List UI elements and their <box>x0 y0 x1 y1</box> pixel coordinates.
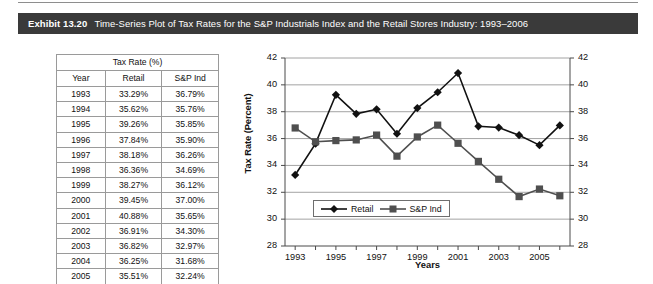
cell-sp-ind: 32.24% <box>162 269 219 284</box>
cell-year: 2005 <box>57 269 106 284</box>
table-super-header-row: Tax Rate (%) <box>57 55 219 71</box>
tax-rate-table: Tax Rate (%) Year Retail S&P Ind 199333.… <box>56 54 219 284</box>
series-line <box>295 73 560 175</box>
cell-sp-ind: 32.97% <box>162 239 219 254</box>
cell-retail: 36.82% <box>105 239 162 254</box>
table-body: 199333.29%36.79%199435.62%35.76%199539.2… <box>57 87 219 284</box>
data-point-diamond <box>474 122 482 130</box>
y-axis-tick-label-right: 36 <box>578 133 594 143</box>
y-axis-tick-label-left: 38 <box>261 106 277 116</box>
y-axis-tick-label-right: 40 <box>578 79 594 89</box>
table-header-row: Year Retail S&P Ind <box>57 71 219 87</box>
table-row: 200336.82%32.97% <box>57 239 219 254</box>
y-axis-tick-label-left: 34 <box>261 159 277 169</box>
table-row: 200436.25%31.68% <box>57 254 219 269</box>
cell-sp-ind: 36.79% <box>162 87 219 102</box>
cell-year: 1998 <box>57 163 106 178</box>
table-row: 200236.91%34.30% <box>57 223 219 238</box>
column-header-year: Year <box>57 71 106 87</box>
x-axis-tick-label: 2005 <box>522 252 556 262</box>
column-header-retail: Retail <box>105 71 162 87</box>
table-row: 200039.45%37.00% <box>57 193 219 208</box>
cell-year: 1996 <box>57 132 106 147</box>
cell-retail: 36.36% <box>105 163 162 178</box>
legend-label: Retail <box>351 204 374 214</box>
data-point-square <box>556 192 563 199</box>
table-row: 199539.26%35.85% <box>57 117 219 132</box>
table-row: 199938.27%36.12% <box>57 178 219 193</box>
legend-diamond-icon <box>321 203 347 215</box>
legend-item-retail: Retail <box>321 203 374 215</box>
y-axis-tick-label-right: 34 <box>578 159 594 169</box>
cell-sp-ind: 35.85% <box>162 117 219 132</box>
x-axis-tick-label: 1999 <box>400 252 434 262</box>
chart-legend: RetailS&P Ind <box>313 200 450 217</box>
y-axis-tick-label-left: 36 <box>261 133 277 143</box>
exhibit-number: Exhibit 13.20 <box>28 18 87 29</box>
x-axis-tick-label: 2001 <box>441 252 475 262</box>
cell-retail: 39.26% <box>105 117 162 132</box>
table-row: 199738.18%36.26% <box>57 147 219 162</box>
table-row: 200535.51%32.24% <box>57 269 219 284</box>
series-retail <box>291 69 564 179</box>
data-point-diamond <box>495 123 503 131</box>
exhibit-title: Time-Series Plot of Tax Rates for the S&… <box>94 18 528 29</box>
data-point-square <box>536 185 543 192</box>
y-axis-tick-label-left: 28 <box>261 240 277 250</box>
cell-year: 1999 <box>57 178 106 193</box>
column-header-sp-ind: S&P Ind <box>162 71 219 87</box>
cell-year: 1994 <box>57 102 106 117</box>
x-axis-tick-label: 1995 <box>319 252 353 262</box>
top-divider <box>18 2 638 3</box>
cell-sp-ind: 36.26% <box>162 147 219 162</box>
y-axis-tick-label-left: 40 <box>261 79 277 89</box>
time-series-chart: Tax Rate (Percent) Years RetailS&P Ind 2… <box>228 50 648 278</box>
cell-retail: 40.88% <box>105 208 162 223</box>
y-axis-tick-label-right: 30 <box>578 213 594 223</box>
cell-retail: 33.29% <box>105 87 162 102</box>
cell-year: 2002 <box>57 223 106 238</box>
cell-sp-ind: 36.12% <box>162 178 219 193</box>
cell-year: 2000 <box>57 193 106 208</box>
cell-sp-ind: 37.00% <box>162 193 219 208</box>
data-point-square <box>495 176 502 183</box>
y-axis-tick-label-right: 38 <box>578 106 594 116</box>
tax-rate-table-container: Tax Rate (%) Year Retail S&P Ind 199333.… <box>56 54 219 284</box>
cell-year: 1995 <box>57 117 106 132</box>
table-row: 200140.88%35.65% <box>57 208 219 223</box>
x-axis-tick-label: 1993 <box>278 252 312 262</box>
cell-retail: 36.25% <box>105 254 162 269</box>
table-row: 199333.29%36.79% <box>57 87 219 102</box>
y-axis-tick-label-left: 30 <box>261 213 277 223</box>
cell-retail: 38.18% <box>105 147 162 162</box>
cell-year: 1997 <box>57 147 106 162</box>
cell-year: 2001 <box>57 208 106 223</box>
data-point-diamond <box>291 171 299 179</box>
y-axis-tick-label-left: 32 <box>261 186 277 196</box>
y-axis-tick-label-right: 42 <box>578 52 594 62</box>
y-axis-tick-label-right: 32 <box>578 186 594 196</box>
cell-sp-ind: 31.68% <box>162 254 219 269</box>
cell-year: 2004 <box>57 254 106 269</box>
x-axis-tick-label: 2003 <box>482 252 516 262</box>
data-point-square <box>353 136 360 143</box>
cell-retail: 35.62% <box>105 102 162 117</box>
cell-retail: 38.27% <box>105 178 162 193</box>
cell-sp-ind: 35.76% <box>162 102 219 117</box>
table-super-header: Tax Rate (%) <box>57 55 219 71</box>
table-row: 199637.84%35.90% <box>57 132 219 147</box>
exhibit-header-bar: Exhibit 13.20 Time-Series Plot of Tax Ra… <box>18 13 638 34</box>
data-point-square <box>434 122 441 129</box>
cell-retail: 35.51% <box>105 269 162 284</box>
series-s-p-ind <box>292 122 564 201</box>
data-point-square <box>454 140 461 147</box>
cell-sp-ind: 34.69% <box>162 163 219 178</box>
legend-item-s-p-ind: S&P Ind <box>380 203 442 215</box>
data-point-square <box>292 124 299 131</box>
y-axis-tick-label-left: 42 <box>261 52 277 62</box>
cell-year: 2003 <box>57 239 106 254</box>
data-point-square <box>414 133 421 140</box>
table-row: 199435.62%35.76% <box>57 102 219 117</box>
data-point-square <box>312 138 319 145</box>
exhibit-figure: Exhibit 13.20 Time-Series Plot of Tax Ra… <box>0 0 653 284</box>
